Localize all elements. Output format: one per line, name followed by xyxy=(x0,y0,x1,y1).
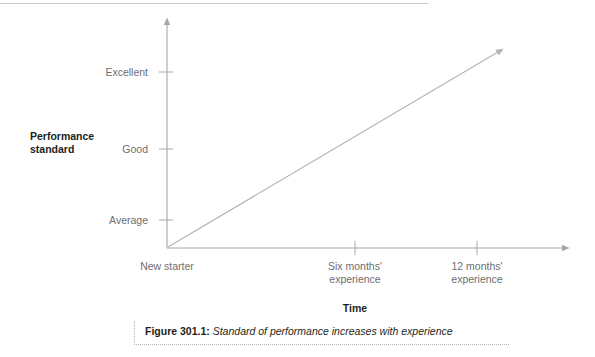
x-tick-label-six-months: Six months' experience xyxy=(295,260,415,286)
x-tick-label-twelve-months-line-1: 12 months' xyxy=(417,260,537,273)
trend-line-performance xyxy=(168,52,498,247)
y-tick-label-excellent: Excellent xyxy=(60,67,148,78)
x-axis-title: Time xyxy=(305,302,405,315)
x-tick-label-twelve-months: 12 months' experience xyxy=(417,260,537,286)
y-axis-title: Performance standard xyxy=(30,130,125,156)
y-axis-title-line-2: standard xyxy=(30,143,125,156)
y-axis-title-line-1: Performance xyxy=(30,130,125,143)
chart-plot-area xyxy=(0,0,595,357)
figure-container: Excellent Good Average Performance stand… xyxy=(0,0,595,357)
x-tick-label-six-months-line-1: Six months' xyxy=(295,260,415,273)
x-tick-label-twelve-months-line-2: experience xyxy=(417,273,537,286)
figure-caption-text: Standard of performance increases with e… xyxy=(210,325,453,337)
x-tick-label-new-starter: New starter xyxy=(107,260,227,273)
x-tick-label-new-starter-line-1: New starter xyxy=(107,260,227,273)
x-tick-label-six-months-line-2: experience xyxy=(295,273,415,286)
figure-caption: Figure 301.1: Standard of performance in… xyxy=(134,321,509,345)
figure-caption-label: Figure 301.1: xyxy=(145,325,210,337)
y-tick-label-average: Average xyxy=(60,215,148,226)
